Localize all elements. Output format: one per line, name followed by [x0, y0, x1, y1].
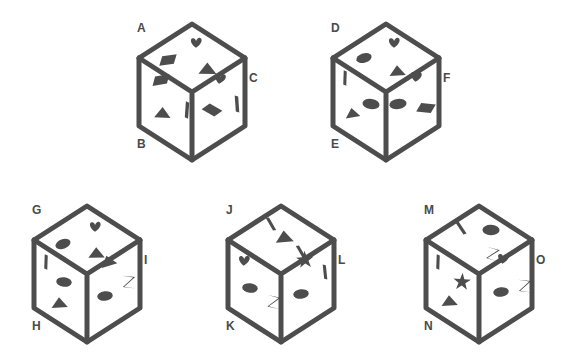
cube-1-label-bottom-left: B	[137, 138, 146, 150]
cube-1: ABC	[133, 18, 251, 166]
cube-2-label-right: F	[443, 72, 450, 84]
bar-shape	[436, 254, 440, 270]
cube-2-drawing	[327, 18, 445, 166]
bar-shape	[343, 70, 347, 86]
cube-1-label-right: C	[249, 72, 258, 84]
cube-4-label-bottom-left: K	[226, 320, 235, 332]
cube-4: JKL	[222, 200, 340, 348]
cube-4-label-top: J	[226, 204, 233, 216]
cube-figure-canvas: ABCDEFGHIJKLMNO	[0, 0, 580, 357]
cube-3-label-right: I	[144, 254, 147, 266]
cube-5-label-right: O	[536, 254, 545, 266]
cube-2-label-top: D	[331, 22, 340, 34]
cube-2-label-bottom-left: E	[331, 138, 339, 150]
cube-1-label-top: A	[137, 22, 146, 34]
bar-shape	[44, 254, 48, 270]
cube-5: MNO	[420, 200, 538, 348]
cube-3-drawing	[28, 200, 146, 348]
cube-3-label-bottom-left: H	[32, 320, 41, 332]
cube-4-drawing	[222, 200, 340, 348]
cube-5-label-bottom-left: N	[424, 320, 433, 332]
cube-3-label-top: G	[32, 204, 41, 216]
cube-4-label-right: L	[338, 254, 345, 266]
cube-5-label-top: M	[424, 204, 434, 216]
cube-1-drawing	[133, 18, 251, 166]
cube-2: DEF	[327, 18, 445, 166]
cube-5-drawing	[420, 200, 538, 348]
cube-3: GHI	[28, 200, 146, 348]
